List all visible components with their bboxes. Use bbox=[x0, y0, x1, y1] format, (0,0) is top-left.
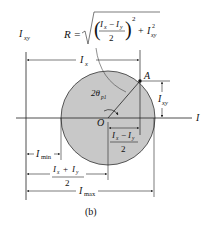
ix-label: I bbox=[79, 54, 84, 65]
svg-text:y: y bbox=[119, 24, 123, 30]
figure-caption: (b) bbox=[85, 206, 97, 218]
point-a-label: A bbox=[143, 70, 151, 81]
radius-formula: R = ( I x − I y 2 ) 2 + I 2 xy bbox=[63, 12, 160, 44]
imin-sub: min bbox=[41, 153, 52, 160]
svg-text:x: x bbox=[115, 135, 119, 141]
svg-text:2: 2 bbox=[132, 15, 136, 23]
vertical-axis-sub: xy bbox=[23, 34, 30, 41]
angle-label: 2θ bbox=[91, 88, 101, 98]
svg-text:2: 2 bbox=[65, 178, 70, 188]
center-o-label: O bbox=[97, 117, 104, 128]
svg-text:): ) bbox=[125, 18, 132, 41]
imax-label: I bbox=[78, 185, 83, 196]
svg-text:2: 2 bbox=[152, 23, 155, 29]
svg-text:x: x bbox=[103, 24, 107, 30]
svg-text:−: − bbox=[121, 130, 126, 140]
svg-text:y: y bbox=[75, 169, 79, 175]
mohr-circle-diagram: R = ( I x − I y 2 ) 2 + I 2 xy I xy I A … bbox=[0, 0, 211, 226]
ix-sub: x bbox=[84, 60, 88, 67]
svg-text:2: 2 bbox=[121, 144, 126, 154]
horizontal-axis-label: I bbox=[195, 112, 200, 123]
svg-text:xy: xy bbox=[150, 32, 157, 38]
ixy-sub: xy bbox=[161, 99, 168, 106]
point-a bbox=[138, 79, 142, 83]
svg-text:−: − bbox=[109, 19, 114, 29]
svg-text:x: x bbox=[56, 169, 60, 175]
imin-label: I bbox=[35, 148, 40, 159]
svg-text:+: + bbox=[138, 25, 144, 36]
svg-text:2: 2 bbox=[109, 33, 114, 43]
angle-sub: p1 bbox=[100, 94, 107, 100]
imax-sub: max bbox=[84, 190, 96, 197]
svg-text:R =: R = bbox=[63, 28, 81, 40]
svg-text:+: + bbox=[63, 164, 68, 174]
vertical-axis-label: I bbox=[18, 28, 23, 39]
svg-text:y: y bbox=[131, 135, 135, 141]
